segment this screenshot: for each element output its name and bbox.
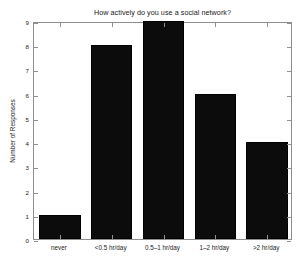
y-tick-mark xyxy=(34,23,38,24)
x-tick-mark xyxy=(267,235,268,239)
x-tick-mark xyxy=(60,235,61,239)
x-tick-mark xyxy=(267,23,268,27)
y-tick-mark xyxy=(287,23,291,24)
y-tick-mark xyxy=(34,144,38,145)
y-tick-mark xyxy=(287,47,291,48)
y-tick-label: 4 xyxy=(0,140,29,147)
figure-canvas: How actively do you use a social network… xyxy=(0,0,307,270)
bar xyxy=(143,21,184,239)
x-tick-label: >2 hr/day xyxy=(226,244,306,252)
bar xyxy=(195,94,236,239)
plot-area xyxy=(34,23,291,239)
bar xyxy=(91,45,132,239)
y-tick-mark xyxy=(34,217,38,218)
y-tick-label: 8 xyxy=(0,43,29,50)
bar xyxy=(246,142,287,239)
y-tick-label: 2 xyxy=(0,188,29,195)
x-tick-mark xyxy=(164,235,165,239)
y-tick-mark xyxy=(287,120,291,121)
x-tick-mark xyxy=(60,23,61,27)
x-tick-mark xyxy=(215,23,216,27)
y-tick-label: 9 xyxy=(0,19,29,26)
y-tick-label: 5 xyxy=(0,115,29,122)
y-tick-mark xyxy=(34,168,38,169)
y-tick-mark xyxy=(34,120,38,121)
plot-box xyxy=(33,22,292,240)
y-tick-mark xyxy=(287,71,291,72)
y-tick-mark xyxy=(287,193,291,194)
x-tick-mark xyxy=(164,23,165,27)
x-tick-mark xyxy=(112,23,113,27)
y-tick-label: 6 xyxy=(0,91,29,98)
y-tick-mark xyxy=(34,241,38,242)
y-tick-mark xyxy=(287,144,291,145)
x-tick-mark xyxy=(215,235,216,239)
y-tick-mark xyxy=(287,241,291,242)
x-tick-mark xyxy=(112,235,113,239)
y-tick-mark xyxy=(34,96,38,97)
y-tick-mark xyxy=(287,217,291,218)
y-tick-mark xyxy=(34,193,38,194)
y-tick-mark xyxy=(34,47,38,48)
y-axis-label: Number of Responses xyxy=(9,71,17,191)
y-tick-label: 3 xyxy=(0,164,29,171)
y-tick-label: 0 xyxy=(0,237,29,244)
y-tick-mark xyxy=(287,96,291,97)
y-tick-label: 1 xyxy=(0,212,29,219)
y-tick-mark xyxy=(287,168,291,169)
chart-title: How actively do you use a social network… xyxy=(33,8,292,17)
y-tick-label: 7 xyxy=(0,67,29,74)
y-tick-mark xyxy=(34,71,38,72)
